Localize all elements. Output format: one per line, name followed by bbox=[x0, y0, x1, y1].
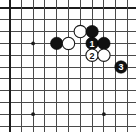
go-board-canvas: 123 bbox=[0, 0, 136, 132]
black-stone-right[interactable] bbox=[98, 37, 110, 49]
hoshi-upper-left bbox=[31, 42, 35, 46]
go-diagram-figure: 123 bbox=[0, 0, 136, 139]
white-stone-left[interactable] bbox=[62, 37, 74, 49]
white-stone-upper[interactable] bbox=[74, 25, 86, 37]
black-stone-move-3-label: 3 bbox=[119, 62, 124, 72]
white-stone-lower-right[interactable] bbox=[98, 49, 110, 61]
hoshi-lower-left bbox=[31, 112, 35, 116]
black-stone-move-1-label: 1 bbox=[90, 39, 95, 49]
figure-caption bbox=[2, 131, 42, 139]
white-stone-move-2-label: 2 bbox=[90, 51, 95, 61]
go-board: 123 bbox=[0, 0, 136, 132]
black-stone-lone[interactable] bbox=[51, 37, 63, 49]
hoshi-lower-center bbox=[102, 112, 106, 116]
black-stone-top[interactable] bbox=[86, 25, 98, 37]
